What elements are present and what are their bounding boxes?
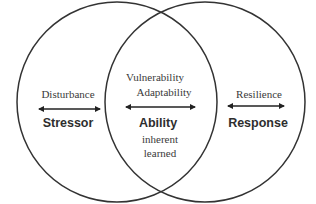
resilience-label: Resilience — [236, 88, 282, 100]
left-circle — [17, 2, 217, 202]
inherent-label: inherent — [142, 133, 178, 145]
adaptability-label: Adaptability — [137, 86, 192, 98]
right-circle — [105, 2, 305, 202]
ability-label: Ability — [139, 116, 177, 130]
learned-label: learned — [144, 147, 176, 159]
venn-graphics — [0, 0, 316, 204]
response-label: Response — [228, 116, 288, 130]
stressor-label: Stressor — [43, 116, 94, 130]
vulnerability-label: Vulnerability — [126, 71, 184, 83]
venn-diagram: Disturbance Stressor Vulnerability Adapt… — [0, 0, 316, 204]
disturbance-label: Disturbance — [41, 88, 94, 100]
